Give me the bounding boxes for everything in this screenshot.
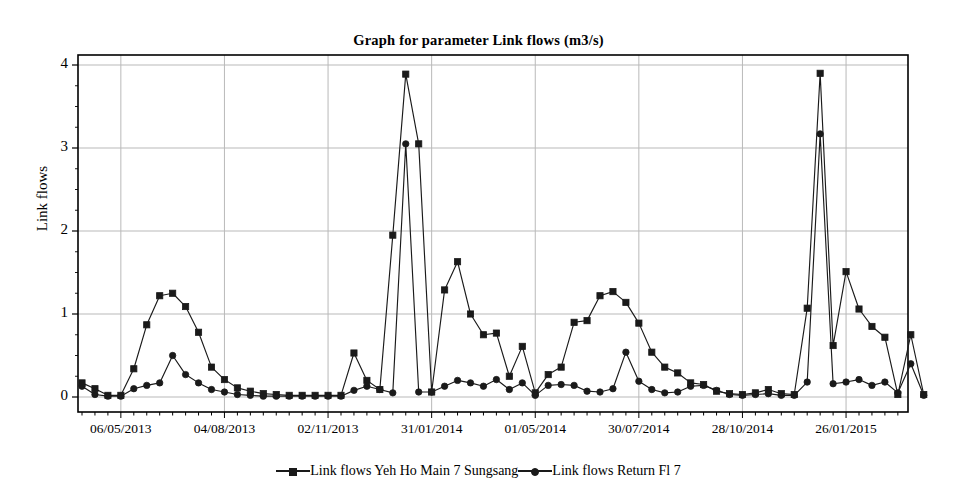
data-point-circle: [921, 392, 927, 398]
x-tick-label-6: 28/10/2014: [687, 421, 797, 437]
plot-area: [0, 0, 957, 489]
data-point-circle: [623, 349, 629, 355]
data-point-circle: [441, 383, 447, 389]
data-point-circle: [234, 391, 240, 397]
series-1: [79, 70, 927, 398]
data-point-square: [856, 306, 862, 312]
data-point-square: [221, 376, 227, 382]
data-point-circle: [260, 393, 266, 399]
data-point-circle: [273, 393, 279, 399]
data-point-square: [144, 322, 150, 328]
data-point-square: [234, 385, 240, 391]
data-point-circle: [299, 393, 305, 399]
data-point-circle: [92, 391, 98, 397]
data-point-square: [157, 293, 163, 299]
data-point-square: [390, 232, 396, 238]
data-point-circle: [726, 391, 732, 397]
data-point-square: [662, 364, 668, 370]
data-point-square: [649, 349, 655, 355]
data-point-circle: [416, 389, 422, 395]
data-point-circle: [739, 392, 745, 398]
data-point-circle: [79, 383, 85, 389]
y-tick-label-3: 3: [42, 139, 68, 154]
x-tick-label-1: 04/08/2013: [169, 421, 279, 437]
data-point-circle: [908, 361, 914, 367]
data-point-square: [817, 70, 823, 76]
circle-marker-icon: [518, 465, 552, 477]
data-point-square: [195, 329, 201, 335]
data-point-circle: [778, 392, 784, 398]
data-point-circle: [144, 382, 150, 388]
data-point-square: [403, 71, 409, 77]
data-point-square: [584, 318, 590, 324]
data-point-square: [558, 364, 564, 370]
data-point-circle: [558, 381, 564, 387]
data-point-circle: [351, 387, 357, 393]
data-point-square: [636, 320, 642, 326]
data-point-circle: [169, 352, 175, 358]
chart-container: Graph for parameter Link flows (m3/s) Li…: [0, 0, 957, 489]
data-point-circle: [830, 381, 836, 387]
data-point-square: [545, 371, 551, 377]
data-point-square: [843, 269, 849, 275]
y-tick-label-1: 1: [42, 305, 68, 320]
data-point-circle: [131, 386, 137, 392]
data-point-circle: [221, 389, 227, 395]
data-point-circle: [752, 391, 758, 397]
x-tick-label-5: 30/07/2014: [584, 421, 694, 437]
y-tick-label-2: 2: [42, 222, 68, 237]
data-point-circle: [480, 383, 486, 389]
data-point-square: [183, 303, 189, 309]
data-point-square: [92, 386, 98, 392]
data-point-square: [480, 332, 486, 338]
data-point-circle: [506, 386, 512, 392]
data-point-circle: [532, 392, 538, 398]
data-point-square: [208, 364, 214, 370]
legend-label-series-2: Link flows Return Fl 7: [552, 463, 680, 479]
data-point-circle: [700, 382, 706, 388]
legend-entry-series-1: Link flows Yeh Ho Main 7 Sungsang: [276, 462, 518, 479]
data-point-circle: [882, 379, 888, 385]
data-point-circle: [584, 388, 590, 394]
data-point-square: [675, 370, 681, 376]
legend-label-series-1: Link flows Yeh Ho Main 7 Sungsang: [310, 463, 518, 479]
data-point-square: [506, 373, 512, 379]
x-tick-label-3: 31/01/2014: [377, 421, 487, 437]
plot-frame: [78, 55, 908, 412]
data-point-square: [623, 299, 629, 305]
data-point-circle: [312, 393, 318, 399]
data-point-square: [170, 290, 176, 296]
data-point-circle: [636, 378, 642, 384]
data-point-square: [416, 141, 422, 147]
data-point-square: [597, 293, 603, 299]
data-point-circle: [545, 382, 551, 388]
data-point-circle: [713, 387, 719, 393]
chart-legend: Link flows Yeh Ho Main 7 Sungsang Link f…: [0, 462, 957, 479]
data-point-square: [804, 305, 810, 311]
data-point-circle: [610, 386, 616, 392]
x-tick-label-4: 01/05/2014: [480, 421, 590, 437]
data-point-square: [351, 350, 357, 356]
data-point-circle: [895, 390, 901, 396]
data-point-circle: [687, 383, 693, 389]
data-point-square: [519, 343, 525, 349]
data-point-circle: [338, 393, 344, 399]
data-point-circle: [804, 379, 810, 385]
data-point-square: [442, 287, 448, 293]
data-point-circle: [817, 131, 823, 137]
series-line: [82, 73, 924, 395]
y-tick-label-4: 4: [42, 56, 68, 71]
data-point-circle: [843, 379, 849, 385]
data-point-circle: [519, 380, 525, 386]
data-point-circle: [675, 389, 681, 395]
data-point-circle: [157, 380, 163, 386]
data-point-circle: [325, 393, 331, 399]
data-point-circle: [493, 376, 499, 382]
data-point-circle: [118, 393, 124, 399]
data-point-circle: [364, 383, 370, 389]
data-point-square: [869, 323, 875, 329]
data-point-square: [454, 259, 460, 265]
y-tick-label-0: 0: [42, 388, 68, 403]
data-point-circle: [765, 390, 771, 396]
data-point-circle: [791, 392, 797, 398]
